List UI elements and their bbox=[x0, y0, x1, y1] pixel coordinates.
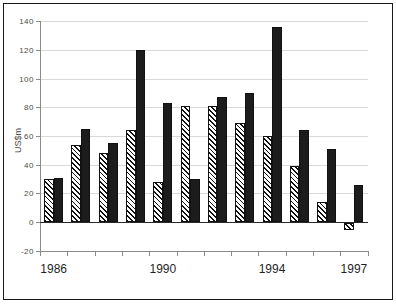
bar-solid-1994 bbox=[272, 27, 282, 222]
bar-solid-1992 bbox=[217, 97, 227, 222]
x-axis-tick bbox=[122, 251, 123, 256]
y-axis bbox=[40, 21, 41, 252]
y-tick-label: 100 bbox=[8, 75, 34, 84]
y-tick-label: 20 bbox=[8, 189, 34, 198]
figure: -200204060801001201401986199019941997 US… bbox=[0, 0, 396, 308]
bar-hatched-1997 bbox=[344, 223, 354, 230]
x-axis-tick bbox=[177, 251, 178, 256]
y-axis-tick bbox=[36, 79, 40, 80]
y-tick-label: -20 bbox=[8, 247, 34, 256]
gridline bbox=[41, 107, 368, 108]
x-axis-tick bbox=[258, 251, 259, 256]
bar-hatched-1991 bbox=[181, 106, 191, 222]
bar-solid-1996 bbox=[327, 149, 337, 222]
bar-solid-1987 bbox=[81, 129, 91, 222]
x-tick-label: 1990 bbox=[143, 262, 183, 276]
gridline bbox=[41, 21, 368, 22]
x-axis-tick bbox=[313, 251, 314, 256]
x-axis-tick bbox=[204, 251, 205, 256]
bar-hatched-1988 bbox=[99, 153, 109, 222]
x-axis-tick bbox=[368, 251, 369, 256]
y-axis-tick bbox=[36, 165, 40, 166]
bar-solid-1986 bbox=[54, 178, 64, 222]
bar-solid-1991 bbox=[190, 179, 200, 222]
x-tick-label: 1994 bbox=[252, 262, 292, 276]
bar-hatched-1996 bbox=[317, 202, 327, 222]
y-tick-label: 120 bbox=[8, 46, 34, 55]
bar-hatched-1986 bbox=[44, 179, 54, 222]
bar-solid-1989 bbox=[136, 50, 146, 222]
x-tick-label: 1986 bbox=[34, 262, 74, 276]
bar-solid-1988 bbox=[108, 143, 118, 222]
gridline bbox=[41, 50, 368, 51]
bar-hatched-1995 bbox=[290, 166, 300, 222]
y-axis-tick bbox=[36, 107, 40, 108]
bar-solid-1995 bbox=[299, 130, 309, 222]
gridline bbox=[41, 79, 368, 80]
y-axis-tick bbox=[36, 136, 40, 137]
x-axis-tick bbox=[231, 251, 232, 256]
bar-solid-1993 bbox=[245, 93, 255, 222]
bar-solid-1997 bbox=[354, 185, 364, 222]
y-tick-label: 80 bbox=[8, 103, 34, 112]
x-tick-label: 1997 bbox=[334, 262, 374, 276]
y-axis-title: US$m bbox=[12, 117, 25, 165]
y-axis-tick bbox=[36, 21, 40, 22]
x-axis-tick bbox=[340, 251, 341, 256]
y-tick-label: 140 bbox=[8, 17, 34, 26]
bar-hatched-1994 bbox=[263, 136, 273, 222]
bar-hatched-1987 bbox=[71, 145, 81, 222]
bar-hatched-1993 bbox=[235, 123, 245, 222]
bar-solid-1990 bbox=[163, 103, 173, 222]
x-axis-tick bbox=[149, 251, 150, 256]
bar-hatched-1990 bbox=[153, 182, 163, 222]
y-axis-tick bbox=[36, 50, 40, 51]
bar-hatched-1989 bbox=[126, 130, 136, 222]
y-axis-tick bbox=[36, 193, 40, 194]
zero-line bbox=[40, 222, 368, 223]
x-axis-tick bbox=[95, 251, 96, 256]
x-axis-tick bbox=[67, 251, 68, 256]
bar-hatched-1992 bbox=[208, 106, 218, 222]
y-tick-label: 0 bbox=[8, 218, 34, 227]
x-axis-tick bbox=[40, 251, 41, 256]
x-axis-tick bbox=[286, 251, 287, 256]
